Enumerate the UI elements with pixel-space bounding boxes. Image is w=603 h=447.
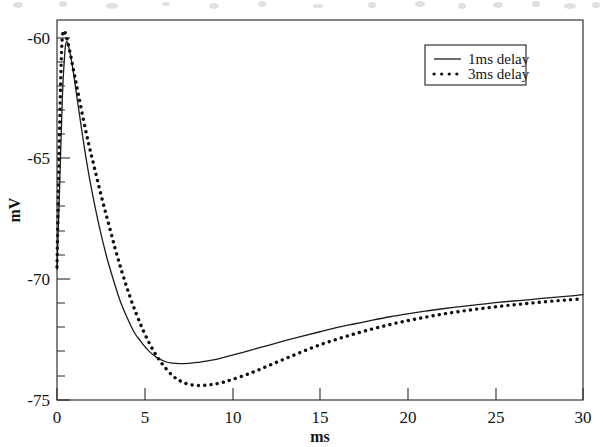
x-tick-label-5: 25 [488, 408, 505, 427]
chart-plot-area: -60 -65 -70 -75 0 5 10 15 20 25 30 ms mV… [0, 0, 603, 447]
y-tick-label-3: -75 [27, 391, 50, 410]
x-axis-ticks [57, 388, 583, 400]
x-tick-label-4: 20 [400, 408, 417, 427]
series-line-1ms-delay [57, 42, 583, 364]
y-tick-label-1: -65 [27, 149, 50, 168]
x-tick-label-1: 5 [141, 408, 150, 427]
x-tick-label-0: 0 [53, 408, 62, 427]
x-axis-title: ms [310, 428, 330, 445]
x-tick-label-6: 30 [575, 408, 592, 427]
chart-figure: -60 -65 -70 -75 0 5 10 15 20 25 30 ms mV… [0, 0, 603, 447]
y-tick-label-2: -70 [27, 270, 50, 289]
legend: 1ms delay 3ms delay [425, 45, 530, 85]
y-tick-label-0: -60 [27, 29, 50, 48]
legend-label-3ms-delay: 3ms delay [468, 66, 530, 82]
x-tick-label-2: 10 [225, 408, 242, 427]
x-tick-label-3: 15 [312, 408, 329, 427]
legend-label-1ms-delay: 1ms delay [468, 51, 530, 67]
y-axis-title: mV [6, 197, 23, 222]
